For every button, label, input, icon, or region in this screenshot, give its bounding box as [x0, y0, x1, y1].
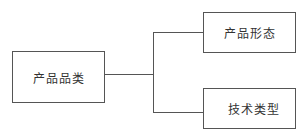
child-node-label: 产品形态: [224, 24, 276, 41]
connector-to-technology-type: [153, 112, 203, 113]
child-node-technology-type: 技术类型: [203, 88, 296, 129]
root-node-product-category: 产品品类: [12, 51, 105, 103]
connector-root-horizontal: [104, 74, 154, 75]
connector-to-product-form: [153, 32, 203, 33]
connector-vertical-trunk: [153, 32, 154, 113]
child-node-product-form: 产品形态: [203, 12, 296, 53]
root-node-label: 产品品类: [33, 69, 85, 86]
child-node-label: 技术类型: [228, 100, 280, 117]
